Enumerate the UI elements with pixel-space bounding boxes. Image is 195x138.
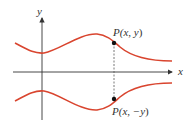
point-upper-label: P(x, y) xyxy=(112,26,143,39)
y-axis-label: y xyxy=(36,5,42,17)
upper-curve xyxy=(15,34,172,61)
point-lower-label: P(x, −y) xyxy=(111,105,149,118)
symmetry-diagram: y x P(x, y) P(x, −y) xyxy=(0,0,195,138)
x-axis-label: x xyxy=(177,65,183,77)
point-upper xyxy=(112,41,116,45)
point-lower xyxy=(112,97,116,101)
